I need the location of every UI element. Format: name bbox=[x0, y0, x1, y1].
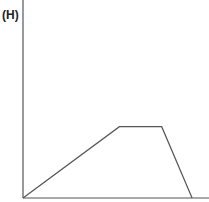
chart-plot bbox=[0, 0, 209, 202]
data-line bbox=[23, 127, 192, 198]
